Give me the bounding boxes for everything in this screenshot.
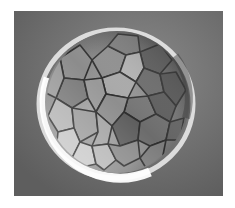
micrograph-panel [14, 11, 223, 196]
embryo-illustration [14, 11, 223, 196]
